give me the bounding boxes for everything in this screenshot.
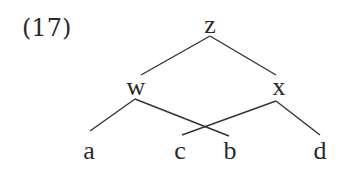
node-b: b (224, 138, 237, 164)
edge-w-b (135, 99, 229, 136)
node-c: c (174, 138, 186, 164)
tree-edges (0, 0, 340, 172)
node-a: a (83, 138, 95, 164)
edge-x-d (276, 101, 320, 135)
node-w: w (127, 74, 146, 100)
edge-w-a (90, 99, 135, 131)
edge-z-x (210, 36, 276, 75)
edge-z-w (141, 36, 210, 75)
node-z: z (204, 12, 216, 38)
edge-x-c (182, 101, 276, 135)
node-x: x (273, 74, 286, 100)
node-d: d (314, 138, 327, 164)
